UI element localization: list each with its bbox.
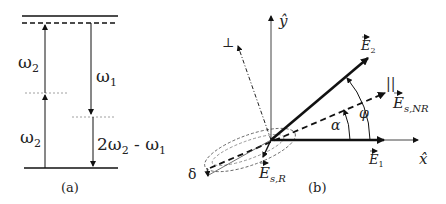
svg-text:E1: E1 <box>368 152 384 169</box>
svg-text:Es,NR: Es,NR <box>392 94 429 114</box>
svg-text:Es,R: Es,R <box>258 164 286 184</box>
label-perpendicular: ⊥ <box>222 35 234 50</box>
panel-a-energy-diagram: ω2 ω2 ω1 2ω2 - ω1 (a) <box>18 16 166 195</box>
label-omega2-upper: ω2 <box>18 52 39 75</box>
label-omega2-lower: ω2 <box>20 127 41 150</box>
svg-text:E2: E2 <box>360 38 376 55</box>
label-E2: E2 <box>360 37 376 55</box>
figure-canvas: ω2 ω2 ω1 2ω2 - ω1 (a) <box>0 0 446 204</box>
panel-b-polarization-diagram: ŷ x̂ ⊥ || δ α φ E1 E2 Es,NR Es,R (b) <box>188 12 429 195</box>
perpendicular-axis <box>238 46 271 140</box>
label-Es-NR: Es,NR <box>392 93 429 114</box>
label-x-axis: x̂ <box>419 150 428 168</box>
label-omega1: ω1 <box>96 66 117 89</box>
caption-a: (a) <box>61 180 79 195</box>
label-alpha: α <box>331 117 341 133</box>
label-phi: φ <box>359 105 369 121</box>
angle-alpha-arc <box>344 110 350 140</box>
label-y-axis: ŷ <box>278 12 288 30</box>
label-Es-R: Es,R <box>258 163 286 184</box>
label-parallel: || <box>386 75 395 92</box>
caption-b: (b) <box>308 180 326 195</box>
label-delta: δ <box>188 166 196 182</box>
vector-E2 <box>271 58 368 140</box>
label-signal-frequency: 2ω2 - ω1 <box>97 134 166 157</box>
label-E1: E1 <box>368 151 384 169</box>
